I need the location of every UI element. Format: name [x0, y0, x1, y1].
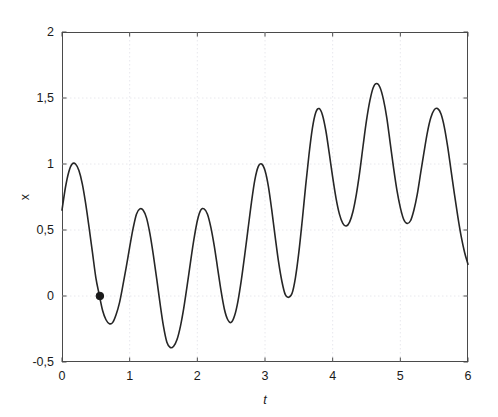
- x-tick-label: 1: [126, 370, 133, 383]
- x-tick-label: 2: [194, 370, 201, 383]
- y-tick-label: 2: [16, 26, 54, 39]
- x-tick-label: 6: [465, 370, 472, 383]
- y-tick-label: 0,5: [16, 224, 54, 237]
- x-tick-label: 3: [262, 370, 269, 383]
- y-tick-label: 0: [16, 290, 54, 303]
- x-tick-label: 0: [59, 370, 66, 383]
- y-tick-label: 1,5: [16, 92, 54, 105]
- figure-canvas: -0,500,511,52 0123456 t x: [0, 0, 498, 417]
- x-tick-label: 4: [329, 370, 336, 383]
- x-axis-title: t: [263, 394, 266, 407]
- plot-area: [62, 32, 468, 362]
- y-axis-title: x: [19, 194, 32, 200]
- x-tick-label: 5: [397, 370, 404, 383]
- y-tick-label: -0,5: [16, 356, 54, 369]
- y-tick-label: 1: [16, 158, 54, 171]
